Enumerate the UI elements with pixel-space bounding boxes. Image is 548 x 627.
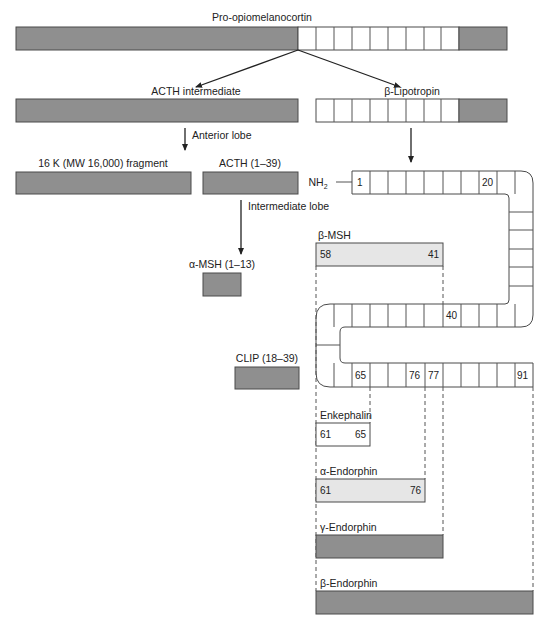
residue-91: 91 [517, 370, 529, 381]
beta-endorphin-bar [316, 591, 533, 614]
residue-40: 40 [446, 310, 458, 321]
acth-intermediate-bar [16, 99, 298, 122]
alpha-endorphin-label: α-Endorphin [320, 465, 378, 477]
residue-1: 1 [357, 177, 363, 188]
lipotropin-chain: NH2 [308, 171, 533, 387]
pomc-bar [16, 27, 507, 50]
beta-lipotropin-label: β-Lipotropin [384, 85, 440, 97]
intermediate-lobe-label: Intermediate lobe [248, 200, 329, 212]
beta-msh-start: 58 [320, 249, 332, 260]
alpha-msh-bar [203, 273, 241, 296]
beta-msh-end: 41 [428, 249, 440, 260]
enkephalin-label: Enkephalin [320, 409, 372, 421]
enkephalin-end: 65 [355, 429, 367, 440]
beta-msh-label: β-MSH [318, 229, 351, 241]
fragment-16k-bar [16, 172, 191, 194]
arrow-to-acth-intermediate [196, 50, 298, 87]
n-terminus-label: NH2 [308, 176, 327, 190]
alpha-endorphin-bar [316, 479, 425, 502]
residue-20: 20 [482, 177, 494, 188]
clip-bar [235, 367, 299, 389]
anterior-lobe-label: Anterior lobe [192, 129, 252, 141]
beta-msh-bar [316, 243, 443, 266]
gamma-endorphin-label: γ-Endorphin [320, 521, 377, 533]
beta-lipotropin-bar [316, 99, 507, 122]
acth-intermediate-label: ACTH intermediate [151, 85, 240, 97]
residue-76: 76 [409, 370, 421, 381]
residue-77: 77 [428, 370, 440, 381]
beta-endorphin-label: β-Endorphin [320, 577, 378, 589]
alpha-endorphin-start: 61 [320, 485, 332, 496]
arrow-to-beta-lipotropin [298, 50, 400, 87]
residue-65: 65 [355, 370, 367, 381]
acth-bar [203, 172, 298, 194]
precursor-title: Pro-opiomelanocortin [212, 11, 312, 23]
pomc-processing-diagram: Pro-opiomelanocortin ACTH intermediate β… [0, 0, 548, 627]
fragment-16k-label: 16 K (MW 16,000) fragment [38, 157, 168, 169]
acth-label: ACTH (1–39) [219, 157, 281, 169]
enkephalin-start: 61 [320, 429, 332, 440]
clip-label: CLIP (18–39) [236, 352, 298, 364]
alpha-endorphin-end: 76 [410, 485, 422, 496]
gamma-endorphin-bar [316, 535, 443, 558]
alpha-msh-label: α-MSH (1–13) [189, 258, 255, 270]
